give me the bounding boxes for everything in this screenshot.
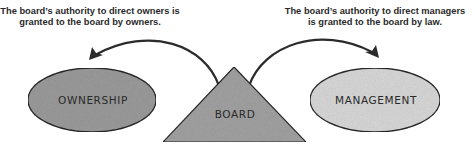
- governance-diagram: OWNERSHIP MANAGEMENT BOARD: [0, 0, 475, 153]
- arrowhead-left-icon: [89, 47, 103, 60]
- management-label: MANAGEMENT: [335, 94, 417, 106]
- ownership-node: OWNERSHIP: [28, 68, 156, 132]
- ownership-label: OWNERSHIP: [58, 94, 128, 106]
- board-node: BOARD: [163, 67, 306, 142]
- arrowhead-right-icon: [365, 45, 379, 58]
- board-label: BOARD: [215, 108, 256, 120]
- management-node: MANAGEMENT: [310, 68, 440, 132]
- board-triangle: [163, 67, 306, 142]
